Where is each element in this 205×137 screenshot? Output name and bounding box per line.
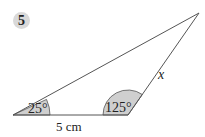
side-label-ab: 5 cm [56,119,82,134]
side-label-bc: x [157,67,165,82]
angle-label-a: 25° [28,101,48,116]
triangle-diagram: 25° 125° 5 cm x [0,0,205,137]
side-bc [128,13,199,115]
angle-label-b: 125° [105,100,132,115]
